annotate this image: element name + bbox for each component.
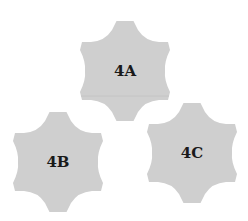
piece-4b-label: 4B — [46, 153, 69, 171]
diagram-canvas: 4A 4B 4C — [0, 0, 248, 221]
pieces-svg: 4A 4B 4C — [0, 0, 248, 221]
piece-4a: 4A — [80, 21, 170, 121]
piece-4a-label: 4A — [114, 62, 136, 80]
piece-4b: 4B — [13, 112, 103, 212]
piece-4c: 4C — [147, 103, 237, 203]
piece-4c-label: 4C — [181, 144, 203, 162]
